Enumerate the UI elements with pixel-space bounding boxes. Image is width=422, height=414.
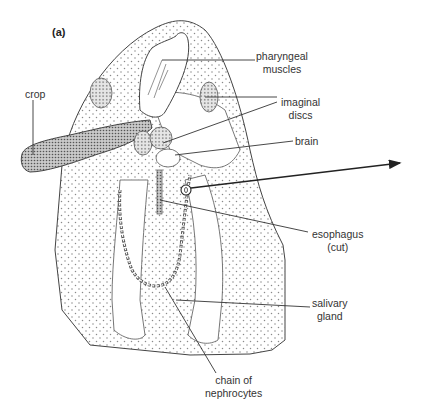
imaginal-disc-left xyxy=(90,78,112,108)
panel-label: (a) xyxy=(52,26,65,38)
label-crop: crop xyxy=(25,88,45,101)
brain-lobe-right xyxy=(150,127,172,149)
label-salivary-gland: salivary gland xyxy=(312,297,348,322)
label-pharyngeal-muscles: pharyngeal muscles xyxy=(256,50,308,75)
label-nephrocytes: chain of nephrocytes xyxy=(205,374,262,399)
esophagus xyxy=(157,170,162,214)
label-brain: brain xyxy=(295,135,318,148)
label-imaginal-discs: imaginal discs xyxy=(281,96,320,121)
brain-lobe-left xyxy=(134,131,152,155)
larva-anatomy-diagram: (a) pharyngeal muscles imaginal discs br… xyxy=(0,0,422,414)
highlighted-nephrocyte xyxy=(181,185,191,195)
brain-ventral xyxy=(156,149,180,167)
label-esophagus: esophagus (cut) xyxy=(312,228,363,253)
diagram-svg xyxy=(0,0,422,414)
